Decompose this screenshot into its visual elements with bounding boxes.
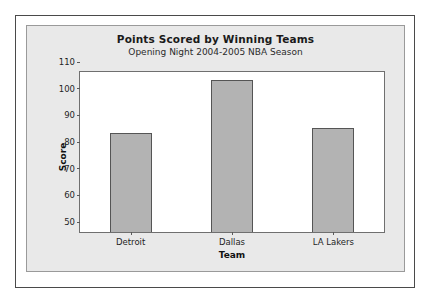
x-tick-label: LA Lakers <box>313 237 354 247</box>
y-tick: 70 <box>64 164 80 174</box>
bar-detroit <box>110 133 152 232</box>
y-tick-label: 80 <box>64 137 75 147</box>
plot-area: 5060708090100110 DetroitDallasLA Lakers <box>79 71 385 233</box>
y-tick-mark <box>77 115 80 116</box>
y-tick: 50 <box>64 217 80 227</box>
y-tick-mark <box>77 142 80 143</box>
x-tick-mark <box>131 232 132 235</box>
bar-dallas <box>211 80 253 232</box>
y-tick-label: 100 <box>59 84 75 94</box>
y-tick-label: 110 <box>59 57 75 67</box>
y-tick-mark <box>77 222 80 223</box>
y-tick: 100 <box>59 84 80 94</box>
y-tick: 90 <box>64 110 80 120</box>
y-tick-label: 90 <box>64 110 75 120</box>
x-tick-label: Dallas <box>219 237 245 247</box>
x-axis-title: Team <box>79 250 385 260</box>
y-tick-mark <box>77 62 80 63</box>
y-tick: 80 <box>64 137 80 147</box>
y-tick-label: 50 <box>64 217 75 227</box>
y-tick-mark <box>77 195 80 196</box>
x-tick-mark <box>333 232 334 235</box>
y-tick-mark <box>77 88 80 89</box>
chart-panel: Points Scored by Winning Teams Opening N… <box>26 25 405 272</box>
y-tick: 110 <box>59 57 80 67</box>
y-tick-mark <box>77 168 80 169</box>
y-tick: 60 <box>64 190 80 200</box>
chart-outer-frame: Points Scored by Winning Teams Opening N… <box>15 15 415 288</box>
y-tick-label: 70 <box>64 164 75 174</box>
x-tick-label: Detroit <box>116 237 145 247</box>
chart-title: Points Scored by Winning Teams <box>27 33 404 46</box>
bar-la-lakers <box>312 128 354 232</box>
y-tick-label: 60 <box>64 190 75 200</box>
chart-subtitle: Opening Night 2004-2005 NBA Season <box>27 46 404 58</box>
x-tick-mark <box>232 232 233 235</box>
title-block: Points Scored by Winning Teams Opening N… <box>27 33 404 58</box>
